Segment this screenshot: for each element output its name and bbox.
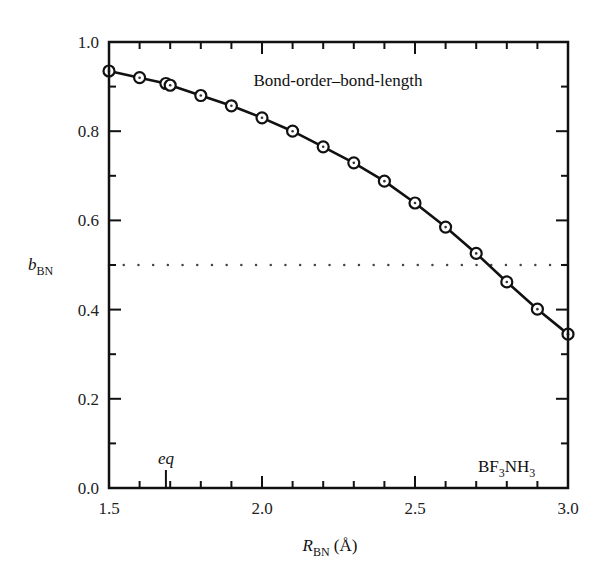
data-point <box>165 80 176 91</box>
x-tick-label: 1.5 <box>98 499 119 518</box>
x-tick-label: 2.5 <box>404 499 425 518</box>
data-point-dot <box>506 281 509 284</box>
data-point-dot <box>353 162 356 165</box>
data-point <box>226 100 237 111</box>
data-point <box>440 222 451 233</box>
data-point <box>257 112 268 123</box>
y-tick-label: 0.8 <box>78 122 99 141</box>
data-point <box>318 141 329 152</box>
y-tick-label: 0.2 <box>78 390 99 409</box>
y-tick-label: 0.0 <box>78 479 99 498</box>
x-tick-label: 2.0 <box>251 499 272 518</box>
annotation-molecule: BF3NH3 <box>478 457 535 480</box>
data-point-dot <box>138 76 141 79</box>
plot-frame <box>109 42 568 488</box>
x-tick-label: 3.0 <box>557 499 578 518</box>
data-point <box>348 157 359 168</box>
data-point-dot <box>414 202 417 205</box>
data-point <box>134 72 145 83</box>
data-point <box>532 304 543 315</box>
data-point-dot <box>444 226 447 229</box>
series-line <box>109 71 568 334</box>
y-axis-label: bBN <box>28 255 54 278</box>
x-axis-label: RBN (Å) <box>302 536 358 559</box>
data-point-dot <box>475 252 478 255</box>
data-point-dot <box>322 146 325 149</box>
eq-marker-label: eq <box>158 449 175 468</box>
data-point <box>471 248 482 259</box>
data-point-dot <box>230 104 233 107</box>
data-point <box>287 126 298 137</box>
data-point <box>501 276 512 287</box>
data-point-dot <box>200 94 203 97</box>
y-tick-label: 1.0 <box>78 33 99 52</box>
data-point <box>195 90 206 101</box>
data-point-dot <box>169 84 172 87</box>
bond-order-chart: 1.52.02.53.00.00.20.40.60.81.0 Bond-orde… <box>0 0 608 578</box>
annotation-bond-order-bond-length: Bond-order–bond-length <box>253 71 423 90</box>
data-point-dot <box>383 180 386 183</box>
data-point-dot <box>261 117 264 120</box>
data-point-dot <box>536 308 539 311</box>
data-point <box>379 176 390 187</box>
data-point-dot <box>291 130 294 133</box>
data-point <box>410 198 421 209</box>
y-tick-label: 0.6 <box>78 211 99 230</box>
y-tick-label: 0.4 <box>78 301 100 320</box>
